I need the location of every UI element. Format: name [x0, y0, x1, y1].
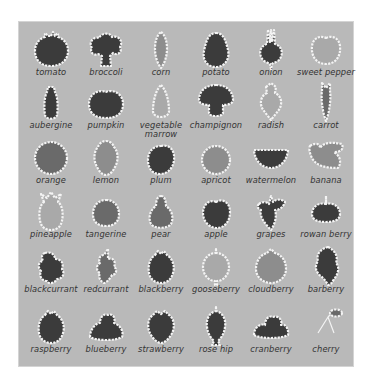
corn-icon	[141, 30, 181, 70]
vocab-card-redcurrant: redcurrant	[78, 247, 134, 303]
vocab-card-rose-hip: rose hip	[188, 307, 244, 363]
cranberry-icon	[251, 307, 291, 347]
vocab-card-cherry: cherry	[298, 307, 354, 363]
raspberry-icon	[31, 307, 71, 347]
carrot-icon	[306, 83, 346, 123]
blackcurrant-icon	[31, 247, 71, 287]
vocab-card-blackcurrant: blackcurrant	[23, 247, 79, 303]
vocab-label: barberry	[292, 285, 360, 294]
rose-hip-icon	[196, 307, 236, 347]
rowan-berry-icon	[306, 192, 346, 232]
broccoli-icon	[86, 30, 126, 70]
vocab-card-watermelon: watermelon	[243, 138, 299, 194]
vocab-label: sweet pepper	[292, 68, 360, 77]
vocab-card-apricot: apricot	[188, 138, 244, 194]
tomato-icon	[31, 30, 71, 70]
vocab-card-broccoli: broccoli	[78, 30, 134, 86]
vocab-label: vegetable marrow	[139, 121, 183, 139]
vocab-card-apple: apple	[188, 192, 244, 248]
vegetable-marrow-icon	[141, 83, 181, 123]
vocab-card-onion: onion	[243, 30, 299, 86]
vocab-card-raspberry: raspberry	[23, 307, 79, 363]
vocab-card-grapes: grapes	[243, 192, 299, 248]
vocab-label: rowan berry	[292, 230, 360, 239]
vocab-card-pineapple: pineapple	[23, 192, 79, 248]
vocab-card-pear: pear	[133, 192, 189, 248]
tangerine-icon	[86, 192, 126, 232]
blackberry-icon	[141, 247, 181, 287]
pineapple-icon	[31, 192, 71, 232]
vocab-card-plum: plum	[133, 138, 189, 194]
pear-icon	[141, 192, 181, 232]
cloudberry-icon	[251, 247, 291, 287]
plum-icon	[141, 138, 181, 178]
apple-icon	[196, 192, 236, 232]
vocab-card-blackberry: blackberry	[133, 247, 189, 303]
vocab-card-lemon: lemon	[78, 138, 134, 194]
vocab-label: cherry	[292, 345, 360, 354]
vocab-card-rowan-berry: rowan berry	[298, 192, 354, 248]
watermelon-icon	[251, 138, 291, 178]
vocab-card-blueberry: blueberry	[78, 307, 134, 363]
onion-icon	[251, 30, 291, 70]
pumpkin-icon	[86, 83, 126, 123]
vocab-card-orange: orange	[23, 138, 79, 194]
radish-icon	[251, 83, 291, 123]
apricot-icon	[196, 138, 236, 178]
aubergine-icon	[31, 83, 71, 123]
vocab-label: banana	[292, 176, 360, 185]
vocab-card-carrot: carrot	[298, 83, 354, 139]
vocab-card-tomato: tomato	[23, 30, 79, 86]
grapes-icon	[251, 192, 291, 232]
vocab-card-gooseberry: gooseberry	[188, 247, 244, 303]
vocab-card-champignon: champignon	[188, 83, 244, 139]
banana-icon	[306, 138, 346, 178]
vocab-card-radish: radish	[243, 83, 299, 139]
vocab-card-cloudberry: cloudberry	[243, 247, 299, 303]
vocab-label: pumpkin	[72, 121, 140, 130]
redcurrant-icon	[86, 247, 126, 287]
champignon-icon	[196, 83, 236, 123]
vocab-card-banana: banana	[298, 138, 354, 194]
potato-icon	[196, 30, 236, 70]
blueberry-icon	[86, 307, 126, 347]
vocabulary-panel: tomatobroccolicornpotatoonionsweet peppe…	[19, 22, 353, 366]
vocab-card-pumpkin: pumpkin	[78, 83, 134, 139]
vocab-card-barberry: barberry	[298, 247, 354, 303]
vocab-card-aubergine: aubergine	[23, 83, 79, 139]
lemon-icon	[86, 138, 126, 178]
vocab-card-corn: corn	[133, 30, 189, 86]
vocab-card-potato: potato	[188, 30, 244, 86]
vocab-card-sweet-pepper: sweet pepper	[298, 30, 354, 86]
gooseberry-icon	[196, 247, 236, 287]
cherry-icon	[306, 307, 346, 347]
strawberry-icon	[141, 307, 181, 347]
barberry-icon	[306, 247, 346, 287]
vocab-card-strawberry: strawberry	[133, 307, 189, 363]
sweet-pepper-icon	[306, 30, 346, 70]
vocab-card-cranberry: cranberry	[243, 307, 299, 363]
vocab-label: carrot	[292, 121, 360, 130]
orange-icon	[31, 138, 71, 178]
vocab-card-tangerine: tangerine	[78, 192, 134, 248]
vocab-card-vegetable-marrow: vegetable marrow	[133, 83, 189, 139]
